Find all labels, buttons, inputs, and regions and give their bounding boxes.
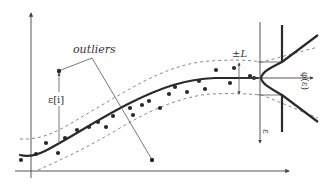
data-point xyxy=(232,66,236,70)
tolerance-label: ±L xyxy=(232,48,247,59)
data-point xyxy=(185,90,189,94)
outliers-label: outliers xyxy=(73,43,116,56)
outlier-point xyxy=(150,158,154,162)
data-point xyxy=(173,85,177,89)
outlier-point xyxy=(57,69,61,73)
data-point xyxy=(214,68,218,72)
data-point xyxy=(147,99,151,103)
data-point xyxy=(19,158,23,162)
outlier-callout-line xyxy=(92,58,151,158)
data-point xyxy=(56,151,60,155)
outlier-callout-line xyxy=(61,58,92,70)
data-point xyxy=(228,81,232,85)
loss-function-label: φ(ε) xyxy=(300,72,310,90)
data-point xyxy=(158,106,162,110)
data-point xyxy=(34,152,38,156)
data-point xyxy=(203,87,207,91)
epsilon-axis-label: ε xyxy=(261,129,271,134)
data-point xyxy=(63,136,67,140)
data-point xyxy=(131,113,135,117)
data-point xyxy=(87,125,91,129)
data-point xyxy=(104,125,108,129)
data-point xyxy=(140,103,144,107)
robust-regression-diagram: outliers ε[i] ±L φ(ε) ε xyxy=(0,0,335,187)
data-points xyxy=(19,66,256,162)
data-point xyxy=(248,74,252,78)
data-point xyxy=(167,92,171,96)
data-point xyxy=(111,114,115,118)
data-point xyxy=(44,141,48,145)
data-point xyxy=(197,79,201,83)
data-point xyxy=(96,120,100,124)
data-point xyxy=(75,128,79,132)
residual-label: ε[i] xyxy=(48,94,64,105)
data-point xyxy=(128,106,132,110)
